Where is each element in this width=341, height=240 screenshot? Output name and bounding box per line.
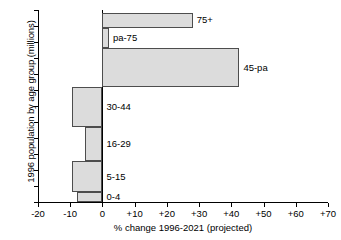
x-axis-tick	[167, 203, 168, 207]
bar-label: 30-44	[106, 102, 130, 112]
x-axis-tick-label: +50	[247, 209, 281, 219]
x-axis-tick	[328, 203, 329, 207]
bar-label: 45-pa	[243, 63, 267, 73]
y-axis-line	[38, 10, 39, 203]
y-axis-tick	[34, 42, 38, 43]
x-axis-tick-label: -10	[53, 209, 87, 219]
x-axis-tick	[231, 203, 232, 207]
bar[interactable]	[102, 28, 108, 49]
y-axis-tick	[34, 26, 38, 27]
x-axis-tick	[70, 203, 71, 207]
x-axis-tick	[38, 203, 39, 207]
x-axis-tick-label: +30	[182, 209, 216, 219]
y-axis-tick	[34, 170, 38, 171]
y-axis-tick	[34, 138, 38, 139]
y-axis-tick	[34, 90, 38, 91]
x-axis-tick-label: +60	[279, 209, 313, 219]
bar[interactable]	[102, 13, 192, 28]
x-axis-line	[38, 202, 328, 203]
y-axis-tick	[34, 122, 38, 123]
bar-label: 16-29	[106, 139, 130, 149]
bar[interactable]	[77, 192, 103, 202]
x-axis-tick	[296, 203, 297, 207]
bar[interactable]	[72, 87, 103, 127]
x-axis-tick	[199, 203, 200, 207]
bar[interactable]	[72, 161, 103, 192]
x-axis-tick	[102, 203, 103, 207]
y-axis-tick	[34, 74, 38, 75]
y-axis-tick	[34, 58, 38, 59]
x-axis-tick	[264, 203, 265, 207]
x-axis-tick-label: 0	[85, 209, 119, 219]
y-axis-tick	[34, 186, 38, 187]
y-axis-tick	[34, 106, 38, 107]
plot-area: 051015202530354045505560 -20-100+10+20+3…	[38, 10, 328, 202]
bar[interactable]	[85, 127, 103, 161]
y-axis-title: 1996 population by age group (millions)	[25, 2, 36, 202]
x-axis-tick-label: -20	[21, 209, 55, 219]
bar[interactable]	[102, 48, 239, 86]
x-axis-tick-label: +70	[311, 209, 341, 219]
bar-label: 75+	[197, 15, 213, 25]
bar-label: 0-4	[106, 192, 120, 202]
y-axis-tick	[34, 154, 38, 155]
x-axis-tick	[135, 203, 136, 207]
x-axis-tick-label: +40	[214, 209, 248, 219]
x-axis-tick-label: +10	[118, 209, 152, 219]
bar-label: pa-75	[113, 33, 137, 43]
x-axis-title: % change 1996-2021 (projected)	[38, 222, 328, 233]
bar-label: 5-15	[106, 172, 125, 182]
y-axis-tick	[34, 10, 38, 11]
x-axis-tick-label: +20	[150, 209, 184, 219]
